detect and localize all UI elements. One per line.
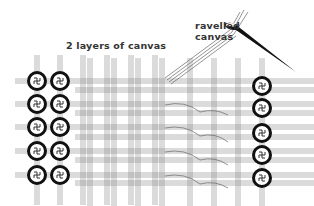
woven-canvas-illustration	[0, 0, 314, 206]
right-knots	[254, 78, 271, 187]
label-ravelled: ravelled	[195, 20, 240, 31]
canvas-weave-diagram: 2 layers of canvas ravelled canvas	[0, 0, 314, 206]
left-knots	[29, 73, 69, 184]
label-ravelled-canvas: canvas	[195, 31, 233, 42]
label-two-layers: 2 layers of canvas	[66, 40, 166, 51]
